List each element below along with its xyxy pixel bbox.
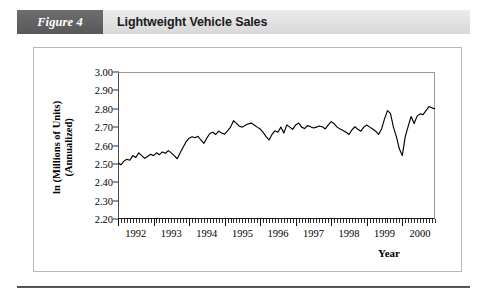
- x-tick-minor: [124, 219, 125, 223]
- x-tick-minor: [127, 219, 128, 223]
- x-tick-label: 1999: [374, 228, 395, 239]
- x-tick-minor: [239, 219, 240, 223]
- x-tick-minor: [204, 219, 205, 223]
- x-tick-minor: [396, 219, 397, 223]
- x-tick-minor: [305, 219, 306, 223]
- x-tick-minor: [340, 219, 341, 223]
- x-axis-tick-labels: 199219931994199519961997199819992000: [118, 228, 448, 244]
- x-tick-minor: [399, 219, 400, 223]
- x-tick-minor: [319, 219, 320, 223]
- x-tick-minor: [287, 219, 288, 223]
- x-tick-major: [331, 219, 332, 226]
- x-tick-minor: [136, 219, 137, 223]
- x-tick-label: 1993: [161, 228, 182, 239]
- x-tick-label: 1995: [232, 228, 253, 239]
- x-tick-minor: [361, 219, 362, 223]
- x-tick-minor: [207, 219, 208, 223]
- x-tick-minor: [284, 219, 285, 223]
- y-axis-title-line-1: ln (Millions of Units): [52, 100, 64, 193]
- x-tick-minor: [293, 219, 294, 223]
- x-tick-minor: [174, 219, 175, 223]
- y-tick-label: 2.40: [95, 177, 113, 188]
- x-tick-minor: [302, 219, 303, 223]
- x-tick-minor: [290, 219, 291, 223]
- x-tick-minor: [426, 219, 427, 223]
- x-tick-minor: [417, 219, 418, 223]
- x-axis-tick-marks: [118, 219, 435, 227]
- x-tick-minor: [168, 219, 169, 223]
- x-tick-minor: [145, 219, 146, 223]
- x-tick-minor: [219, 219, 220, 223]
- x-tick-minor: [198, 219, 199, 223]
- x-tick-minor: [411, 219, 412, 223]
- x-tick-major: [189, 219, 190, 226]
- x-tick-minor: [233, 219, 234, 223]
- x-tick-minor: [373, 219, 374, 223]
- x-tick-minor: [195, 219, 196, 223]
- x-tick-minor: [281, 219, 282, 223]
- x-tick-minor: [334, 219, 335, 223]
- x-tick-minor: [177, 219, 178, 223]
- x-tick-minor: [337, 219, 338, 223]
- x-tick-major: [402, 219, 403, 226]
- x-tick-minor: [121, 219, 122, 223]
- x-tick-label: 2000: [410, 228, 431, 239]
- x-tick-minor: [216, 219, 217, 223]
- x-tick-minor: [272, 219, 273, 223]
- y-tick-label: 2.30: [95, 195, 113, 206]
- x-tick-minor: [263, 219, 264, 223]
- x-tick-minor: [408, 219, 409, 223]
- x-tick-minor: [313, 219, 314, 223]
- figure-number-block: Figure 4: [17, 10, 103, 34]
- x-tick-minor: [228, 219, 229, 223]
- bottom-divider-rule: [17, 286, 470, 288]
- x-tick-minor: [352, 219, 353, 223]
- x-tick-minor: [435, 219, 436, 223]
- x-tick-major: [154, 219, 155, 226]
- x-tick-minor: [343, 219, 344, 223]
- y-tick-label: 2.20: [95, 214, 113, 225]
- x-tick-minor: [236, 219, 237, 223]
- x-tick-minor: [257, 219, 258, 223]
- x-tick-minor: [142, 219, 143, 223]
- series-line-lightweight-vehicle-sales: [118, 88, 435, 165]
- x-tick-minor: [358, 219, 359, 223]
- x-tick-minor: [231, 219, 232, 223]
- y-axis-title: ln (Millions of Units) (Annualized): [46, 72, 82, 222]
- y-axis-title-line-2: (Annualized): [64, 100, 76, 193]
- x-tick-minor: [376, 219, 377, 223]
- x-tick-minor: [251, 219, 252, 223]
- x-tick-minor: [201, 219, 202, 223]
- x-tick-minor: [390, 219, 391, 223]
- x-tick-major: [225, 219, 226, 226]
- x-tick-minor: [322, 219, 323, 223]
- x-tick-minor: [385, 219, 386, 223]
- x-tick-minor: [316, 219, 317, 223]
- y-tick-label: 2.60: [95, 140, 113, 151]
- x-tick-minor: [349, 219, 350, 223]
- y-tick-label: 2.50: [95, 158, 113, 169]
- x-tick-minor: [151, 219, 152, 223]
- x-tick-minor: [420, 219, 421, 223]
- x-tick-minor: [382, 219, 383, 223]
- x-tick-minor: [159, 219, 160, 223]
- x-tick-minor: [310, 219, 311, 223]
- y-tick-label: 2.90: [95, 85, 113, 96]
- y-tick-label: 2.80: [95, 103, 113, 114]
- x-tick-minor: [308, 219, 309, 223]
- figure-number-label: Figure 4: [37, 15, 83, 30]
- x-tick-major: [367, 219, 368, 226]
- x-tick-minor: [387, 219, 388, 223]
- x-tick-major: [296, 219, 297, 226]
- x-tick-minor: [245, 219, 246, 223]
- x-tick-minor: [393, 219, 394, 223]
- x-tick-major: [118, 219, 119, 226]
- x-tick-minor: [269, 219, 270, 223]
- x-tick-minor: [379, 219, 380, 223]
- x-tick-minor: [171, 219, 172, 223]
- figure-header-bar: Figure 4 Lightweight Vehicle Sales: [17, 10, 470, 34]
- x-tick-minor: [266, 219, 267, 223]
- y-tick-label: 3.00: [95, 67, 113, 78]
- series-line-chart: [118, 72, 435, 219]
- x-tick-minor: [364, 219, 365, 223]
